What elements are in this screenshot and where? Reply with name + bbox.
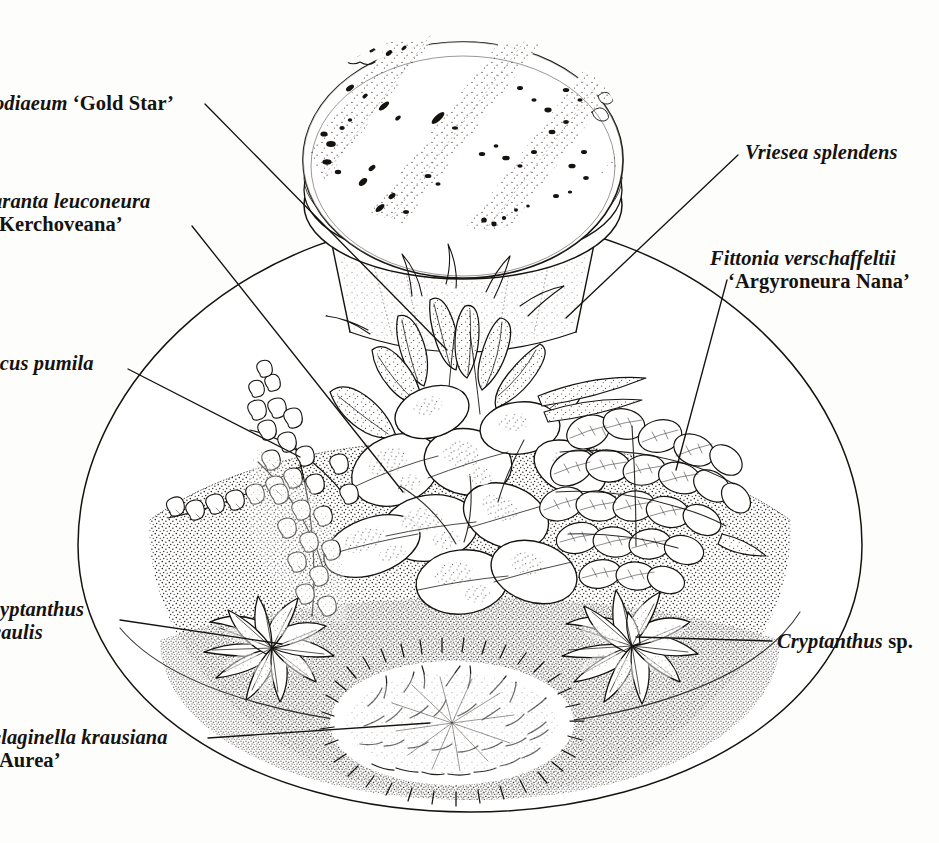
label-ficus-pumila: icus pumila xyxy=(0,352,94,375)
label-selaginella-genus: elaginella krausiana xyxy=(0,726,168,748)
label-cryptanthus-acaulis: ryptanthus caulis xyxy=(0,598,84,644)
label-maranta-leuconeura: aranta leuconeura ‘Kerchoveana’ xyxy=(0,190,150,236)
label-vriesea-genus: Vriesea splendens xyxy=(745,141,898,163)
label-codiaeum-genus: odiaeum xyxy=(0,92,68,114)
terrarium-drawing xyxy=(0,0,939,843)
bottle-lid xyxy=(134,36,716,278)
label-fittonia-genus: Fittonia verschaffeltii xyxy=(710,247,896,269)
label-cryptanthus-sp-abbrev: sp. xyxy=(888,630,913,652)
label-cryptanthus-acaulis-genus: ryptanthus xyxy=(0,598,84,620)
label-fittonia-cultivar: ‘Argyroneura Nana’ xyxy=(728,270,910,292)
label-codiaeum-gold-star: odiaeum ‘Gold Star’ xyxy=(0,92,174,115)
label-ficus-genus: icus pumila xyxy=(0,352,94,374)
label-selaginella-krausiana: elaginella krausiana ‘Aurea’ xyxy=(0,726,168,772)
label-fittonia-verschaffeltii: Fittonia verschaffeltii ‘Argyroneura Nan… xyxy=(710,247,910,293)
label-codiaeum-cultivar: ‘Gold Star’ xyxy=(73,92,174,114)
botanical-illustration-figure: odiaeum ‘Gold Star’ aranta leuconeura ‘K… xyxy=(0,0,939,843)
label-cryptanthus-acaulis-species: caulis xyxy=(0,621,43,643)
label-cryptanthus-sp: Cryptanthus sp. xyxy=(777,630,913,653)
label-vriesea-splendens: Vriesea splendens xyxy=(745,141,898,164)
label-selaginella-cultivar: ‘Aurea’ xyxy=(0,749,61,771)
label-maranta-genus: aranta leuconeura xyxy=(0,190,150,212)
label-maranta-cultivar: ‘Kerchoveana’ xyxy=(0,213,123,235)
label-cryptanthus-sp-genus: Cryptanthus xyxy=(777,630,883,652)
